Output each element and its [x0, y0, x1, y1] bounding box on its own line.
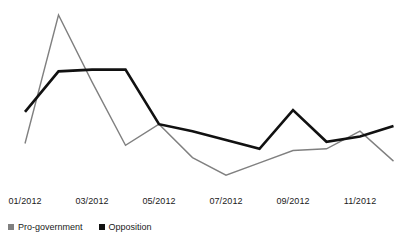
series-lines [25, 15, 394, 175]
x-tick-label: 11/2012 [344, 196, 377, 206]
series-line-opposition [25, 70, 394, 149]
legend-swatch-icon [8, 224, 14, 230]
line-chart: 01/201203/201205/201207/201209/201211/20… [0, 0, 397, 238]
x-tick-label: 03/2012 [75, 196, 108, 206]
legend-item-label: Pro-government [18, 222, 83, 232]
chart-plot-svg [0, 0, 397, 192]
chart-legend: Pro-governmentOpposition [8, 220, 152, 234]
x-tick-label: 01/2012 [8, 196, 41, 206]
x-axis: 01/201203/201205/201207/201209/201211/20… [0, 196, 397, 212]
legend-swatch-icon [99, 224, 105, 230]
legend-item-label: Opposition [109, 222, 152, 232]
x-tick-label: 09/2012 [276, 196, 309, 206]
legend-item[interactable]: Pro-government [8, 222, 83, 232]
series-line-pro-government [25, 15, 394, 175]
x-tick-label: 05/2012 [142, 196, 175, 206]
legend-item[interactable]: Opposition [99, 222, 152, 232]
plot-area [0, 0, 397, 192]
x-tick-label: 07/2012 [209, 196, 242, 206]
